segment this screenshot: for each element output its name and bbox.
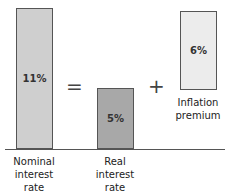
label-line: rate bbox=[85, 181, 145, 194]
inflation-premium-bar: 6% bbox=[180, 11, 217, 90]
inflation-premium-value: 6% bbox=[190, 45, 207, 56]
equals-sign: = bbox=[66, 74, 83, 98]
inflation-premium-label: Inflation premium bbox=[168, 96, 228, 122]
label-line: rate bbox=[4, 181, 64, 194]
nominal-rate-label: Nominal interest rate bbox=[4, 155, 64, 194]
real-rate-label: Real interest rate bbox=[85, 155, 145, 194]
label-line: premium bbox=[168, 109, 228, 122]
nominal-rate-value: 11% bbox=[23, 73, 47, 84]
real-rate-bar: 5% bbox=[97, 88, 134, 149]
label-line: Real bbox=[85, 155, 145, 168]
label-line: Inflation bbox=[168, 96, 228, 109]
label-line: interest bbox=[4, 168, 64, 181]
label-line: Nominal bbox=[4, 155, 64, 168]
real-rate-value: 5% bbox=[107, 113, 124, 124]
plus-sign: + bbox=[148, 74, 165, 98]
baseline bbox=[5, 149, 225, 150]
nominal-rate-bar: 11% bbox=[16, 8, 53, 149]
label-line: interest bbox=[85, 168, 145, 181]
